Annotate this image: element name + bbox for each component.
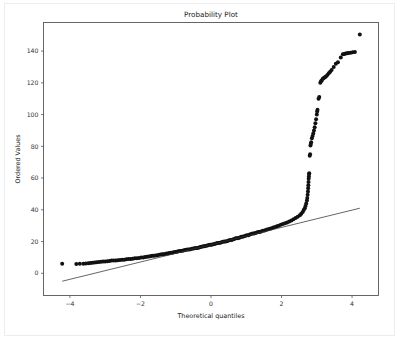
x-tick-label: 2 xyxy=(280,300,284,307)
y-tick-label: 120 xyxy=(27,79,39,86)
y-tick-label: 140 xyxy=(27,47,39,54)
page-title: Probability Plot xyxy=(184,10,238,19)
data-point xyxy=(78,262,82,266)
y-axis-ticks: 020406080100120140 xyxy=(27,47,44,276)
x-tick-label: −2 xyxy=(136,300,145,307)
axes-frame xyxy=(44,23,379,296)
x-axis-ticks: −4−2024 xyxy=(65,296,354,307)
data-point xyxy=(309,140,313,144)
data-point xyxy=(315,108,319,112)
data-point xyxy=(317,95,321,99)
data-point xyxy=(313,121,317,125)
y-tick-label: 40 xyxy=(31,206,39,213)
y-tick-label: 20 xyxy=(31,238,39,245)
y-tick-label: 80 xyxy=(31,143,39,150)
data-point xyxy=(336,60,340,64)
y-tick-label: 0 xyxy=(35,269,39,276)
data-point xyxy=(74,262,78,266)
data-point xyxy=(358,32,362,36)
data-point xyxy=(314,117,318,121)
x-tick-label: −4 xyxy=(65,300,74,307)
x-tick-label: 0 xyxy=(209,300,213,307)
data-point xyxy=(60,262,64,266)
data-point xyxy=(353,50,357,54)
y-tick-label: 60 xyxy=(31,174,39,181)
x-axis-label: Theoretical quantiles xyxy=(176,312,245,320)
data-point xyxy=(313,125,317,129)
data-point xyxy=(307,171,311,175)
x-tick-label: 4 xyxy=(350,300,354,307)
probability-plot-figure: −4−2024 020406080100120140 Probability P… xyxy=(0,0,400,340)
y-axis-label: Ordered Values xyxy=(14,134,22,184)
data-point xyxy=(308,152,312,156)
probability-plot-svg: −4−2024 020406080100120140 Probability P… xyxy=(0,0,400,340)
y-tick-label: 100 xyxy=(27,111,39,118)
